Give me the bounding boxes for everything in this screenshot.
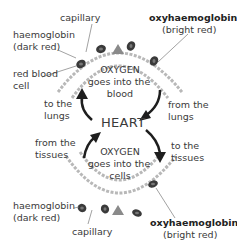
to-lungs-sublabel: lungs: [44, 110, 70, 121]
top-haemoglobin-label: haemoglobin: [13, 29, 75, 40]
bottom-haemoglobin-label: haemoglobin: [13, 200, 75, 211]
bottom-haemoglobin-sublabel: (dark red): [13, 212, 60, 223]
oxygen-arrow-top-icon: [112, 44, 124, 54]
heart-label: HEART: [101, 115, 145, 130]
from-lungs-sublabel: lungs: [168, 111, 194, 122]
top-haemoglobin-sublabel: (dark red): [13, 41, 60, 52]
top-oxyhaemoglobin-label: oxyhaemoglobin: [149, 12, 237, 23]
to-tissues-sublabel: tissues: [171, 152, 204, 163]
oxygen-arrow-bottom-icon: [112, 205, 124, 215]
from-tissues-label: from the: [35, 137, 76, 148]
to-tissues-label: to the: [171, 140, 199, 151]
bottom-oxygen-line2: goes into the: [86, 158, 152, 169]
from-tissues-sublabel: tissues: [35, 149, 68, 160]
top-capillary-label: capillary: [60, 12, 100, 23]
top-oxyhaemoglobin-sublabel: (bright red): [162, 24, 216, 35]
bottom-capillary-label: capillary: [72, 226, 112, 237]
top-oxygen-title: OXYGEN: [100, 64, 140, 75]
red-blood-cell-sublabel: cell: [13, 80, 29, 91]
top-oxygen-line3: blood: [100, 88, 140, 99]
from-lungs-label: from the: [168, 99, 209, 110]
bottom-oxyhaemoglobin-sublabel: (bright red): [163, 229, 217, 240]
bottom-oxygen-line3: cells: [100, 170, 140, 181]
red-blood-cell-label: red blood: [13, 68, 58, 79]
bottom-oxyhaemoglobin-label: oxyhaemoglobin: [150, 217, 237, 228]
bottom-oxygen-title: OXYGEN: [100, 146, 140, 157]
to-lungs-label: to the: [44, 98, 72, 109]
top-oxygen-line2: goes into the: [86, 76, 152, 87]
